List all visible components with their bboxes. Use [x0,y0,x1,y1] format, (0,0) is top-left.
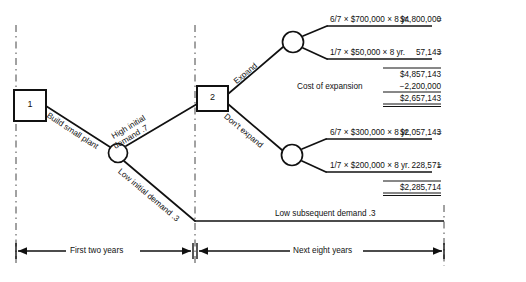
outcome-value-4: 228,571 [381,161,441,170]
chance-node-dont-expand [282,145,303,166]
branch-noexpand-high [302,139,326,149]
cost-of-expansion-label: Cost of expansion [297,82,363,92]
timeline-label-next-eight-years: Next eight years [293,246,352,256]
branch-expand-high [303,26,327,36]
cost-of-expansion-value: −2,200,000 [381,82,441,91]
expand-subtotal: $4,857,143 [381,70,441,79]
branch-expand-low [303,48,327,59]
decision-tree-diagram: 1 2 Build small plant High initial deman… [0,0,526,282]
expand-total: $2,657,143 [381,94,441,103]
outcome-value-2: 57,143 [381,48,441,57]
branch-noexpand-low [302,161,326,172]
noexpand-total: $2,285,714 [381,183,441,192]
branch-label-low-subsequent-demand: Low subsequent demand .3 [275,209,376,219]
outcome-value-1: $4,800,000 [381,15,441,24]
timeline-label-first-two-years: First two years [70,246,123,256]
decision-node-2-label: 2 [197,92,228,102]
outcome-value-3: $2,057,143 [381,128,441,137]
chance-node-expand [283,32,304,53]
decision-node-1-label: 1 [14,99,46,109]
